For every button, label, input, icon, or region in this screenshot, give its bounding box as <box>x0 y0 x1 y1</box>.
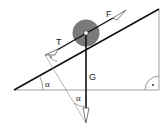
force-t-label: T <box>56 37 62 47</box>
ball-center-point <box>84 31 88 35</box>
force-triangle-side <box>45 55 86 123</box>
force-g-arrowhead <box>83 108 89 123</box>
force-f-label: F <box>106 9 112 19</box>
alpha-label-incline: α <box>45 79 50 89</box>
alpha-arc-incline <box>40 76 44 90</box>
right-angle-dot-t <box>50 56 52 58</box>
right-angle-arc <box>145 76 159 90</box>
force-f-arrowhead <box>113 10 126 20</box>
right-angle-dot <box>152 84 154 86</box>
alpha-label-triangle: α <box>76 93 81 103</box>
force-t-arrowhead <box>45 49 58 55</box>
inclined-plane-diagram: α F T G α <box>0 0 168 133</box>
force-g-label: G <box>89 72 96 82</box>
